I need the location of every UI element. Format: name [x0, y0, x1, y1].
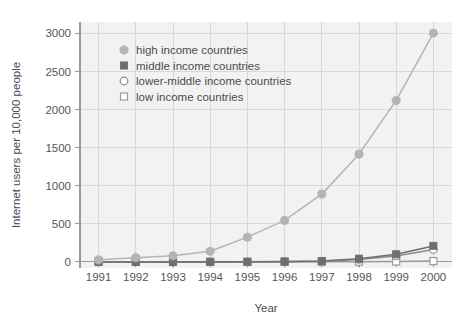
x-tick-label: 1996 [272, 271, 298, 283]
marker-filled-square [355, 255, 362, 262]
data-point [281, 258, 288, 265]
legend-item: lower-middle income countries [120, 75, 291, 87]
open-square-icon [121, 93, 128, 100]
marker-filled-circle [392, 96, 400, 104]
marker-filled-square [281, 258, 288, 265]
marker-open-square [121, 93, 128, 100]
y-axis-title: Internet users per 10,000 people [10, 62, 22, 228]
x-tick-label: 2000 [421, 271, 447, 283]
legend-item: low income countries [121, 91, 244, 103]
marker-filled-square [207, 258, 214, 265]
marker-open-square [430, 258, 437, 265]
marker-filled-square [318, 257, 325, 264]
legend-item: high income countries [120, 44, 248, 56]
x-tick-label: 1999 [383, 271, 409, 283]
filled-circle-icon [120, 46, 128, 54]
data-point [281, 216, 289, 224]
marker-filled-circle [281, 216, 289, 224]
y-tick-label: 2500 [45, 66, 71, 78]
marker-filled-circle [169, 252, 177, 260]
marker-filled-square [120, 62, 127, 69]
x-tick-label: 1993 [160, 271, 186, 283]
open-circle-icon [120, 77, 128, 85]
data-point [169, 252, 177, 260]
data-point [355, 255, 362, 262]
y-tick-label: 0 [65, 256, 71, 268]
data-point [318, 257, 325, 264]
marker-filled-circle [95, 256, 103, 264]
data-point [392, 96, 400, 104]
marker-filled-square [430, 242, 437, 249]
marker-filled-square [393, 251, 400, 258]
marker-filled-circle [318, 190, 326, 198]
y-tick-label: 2000 [45, 104, 71, 116]
x-tick-label: 1998 [346, 271, 372, 283]
y-tick-label: 3000 [45, 27, 71, 39]
marker-filled-circle [132, 254, 140, 262]
chart-figure: 0500100015002000250030001991199219931994… [0, 0, 467, 324]
x-axis-title: Year [254, 302, 277, 314]
filled-square-icon [120, 62, 127, 69]
x-tick-label: 1991 [86, 271, 112, 283]
data-point [244, 258, 251, 265]
marker-filled-circle [120, 46, 128, 54]
data-point [355, 150, 363, 158]
data-point [430, 258, 437, 265]
marker-filled-circle [429, 29, 437, 37]
legend-item-label: middle income countries [136, 60, 260, 72]
marker-filled-circle [206, 247, 214, 255]
data-point [207, 258, 214, 265]
x-tick-label: 1992 [123, 271, 149, 283]
legend-item-label: low income countries [136, 91, 244, 103]
data-point [243, 233, 251, 241]
y-tick-label: 500 [52, 218, 71, 230]
legend-item-label: high income countries [136, 44, 248, 56]
marker-filled-square [244, 258, 251, 265]
x-tick-label: 1994 [197, 271, 223, 283]
data-point [393, 251, 400, 258]
y-tick-label: 1500 [45, 142, 71, 154]
data-point [132, 254, 140, 262]
x-tick-label: 1995 [235, 271, 261, 283]
legend-item-label: lower-middle income countries [136, 75, 292, 87]
data-point [430, 242, 437, 249]
data-point [318, 190, 326, 198]
legend-item: middle income countries [120, 60, 260, 72]
marker-filled-circle [355, 150, 363, 158]
marker-filled-circle [243, 233, 251, 241]
data-point [429, 29, 437, 37]
data-point [206, 247, 214, 255]
marker-open-circle [120, 77, 128, 85]
data-point [95, 256, 103, 264]
x-tick-label: 1997 [309, 271, 335, 283]
y-tick-label: 1000 [45, 180, 71, 192]
internet-users-line-chart: 0500100015002000250030001991199219931994… [0, 0, 467, 324]
